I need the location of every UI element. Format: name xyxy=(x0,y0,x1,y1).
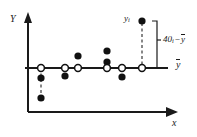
filled-point xyxy=(37,94,44,101)
x-axis-label: x xyxy=(172,118,176,128)
brace-yi-base: 40 xyxy=(163,34,172,44)
deviation-brace-label: 40i−y xyxy=(163,35,185,45)
open-point xyxy=(75,65,82,72)
brace-ybar: y xyxy=(181,35,185,44)
filled-point xyxy=(37,74,44,81)
mean-line-label: y xyxy=(176,60,180,70)
deviation-from-mean-figure: Y x yi 40i−y y xyxy=(0,0,197,137)
brace-minus-sign: − xyxy=(174,34,181,44)
highlight-point-yi xyxy=(138,17,145,24)
y-axis-arrowhead xyxy=(24,12,32,23)
yi-label-subscript: i xyxy=(128,16,130,23)
filled-point xyxy=(74,52,81,59)
figure-canvas xyxy=(0,0,197,137)
ybar-symbol: y xyxy=(176,60,180,70)
yi-point-label: yi xyxy=(124,14,130,24)
x-axis-arrowhead xyxy=(166,107,178,117)
filled-point xyxy=(61,72,68,79)
open-point xyxy=(104,65,111,72)
open-point xyxy=(62,65,69,72)
open-point xyxy=(139,65,146,72)
open-point xyxy=(119,65,126,72)
deviation-brace xyxy=(152,21,161,68)
open-point xyxy=(38,65,45,72)
filled-point xyxy=(103,47,110,54)
y-axis-label: Y xyxy=(10,14,16,24)
filled-point xyxy=(118,73,125,80)
